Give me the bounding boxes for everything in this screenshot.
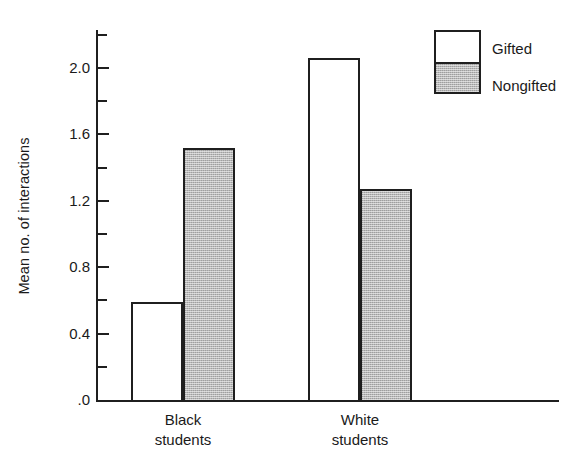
y-tick-minor [98, 366, 107, 368]
y-tick-minor [98, 34, 107, 36]
legend-label-nongifted: Nongifted [492, 78, 556, 93]
bar-chart: Mean no. of interactions 2.01.61.20.80.4… [0, 0, 587, 463]
y-axis-title: Mean no. of interactions [16, 106, 32, 326]
y-axis-line [96, 30, 98, 402]
bar-white-nongifted [360, 189, 412, 402]
y-tick-minor [98, 299, 107, 301]
y-tick-label: 1.6 [46, 126, 90, 141]
y-tick-minor [98, 167, 107, 169]
y-tick-major [98, 333, 109, 335]
y-tick-major [98, 67, 109, 69]
legend-swatch-gifted [436, 32, 479, 62]
legend-label-gifted: Gifted [492, 41, 532, 56]
y-tick-label: 0.4 [46, 326, 90, 341]
x-axis-group-label-line: students [280, 430, 440, 450]
y-tick-major [98, 133, 109, 135]
bar-black-gifted [131, 302, 183, 402]
y-tick-label: .0 [46, 392, 90, 407]
x-axis-group-label-line: White [280, 410, 440, 430]
y-tick-label: 0.8 [46, 259, 90, 274]
legend-swatch-nongifted [436, 62, 479, 92]
x-axis-group-label: Blackstudents [103, 410, 263, 451]
y-tick-label: 1.2 [46, 193, 90, 208]
y-tick-label: 2.0 [46, 60, 90, 75]
legend-box [434, 30, 481, 94]
y-tick-minor [98, 100, 107, 102]
y-tick-major [98, 200, 109, 202]
x-axis-group-label-line: students [103, 430, 263, 450]
bar-white-gifted [308, 58, 360, 402]
y-tick-major [98, 266, 109, 268]
bar-black-nongifted [183, 148, 235, 402]
y-tick-minor [98, 233, 107, 235]
x-axis-group-label: Whitestudents [280, 410, 440, 451]
x-axis-group-label-line: Black [103, 410, 263, 430]
